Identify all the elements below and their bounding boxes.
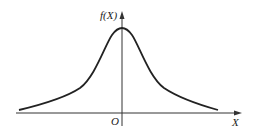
density-plot (0, 0, 254, 136)
origin-label: O (111, 116, 119, 127)
x-axis-arrow-icon (234, 111, 242, 116)
y-axis-label: f(X) (100, 10, 117, 21)
y-axis-arrow-icon (120, 11, 125, 19)
x-axis-label: X (232, 117, 239, 128)
density-curve (19, 28, 218, 110)
